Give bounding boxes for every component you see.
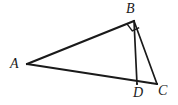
vertex-label-c: C bbox=[158, 84, 167, 98]
segment-bc bbox=[134, 21, 157, 84]
vertex-point-b bbox=[133, 20, 135, 22]
vertex-label-b: B bbox=[126, 2, 135, 16]
vertex-label-d: D bbox=[133, 86, 143, 100]
vertex-label-a: A bbox=[10, 57, 19, 71]
vertex-point-a bbox=[26, 63, 28, 65]
geometry-figure: A B C D bbox=[0, 0, 178, 105]
geometry-canvas bbox=[0, 0, 178, 105]
segment-ab bbox=[27, 21, 134, 64]
